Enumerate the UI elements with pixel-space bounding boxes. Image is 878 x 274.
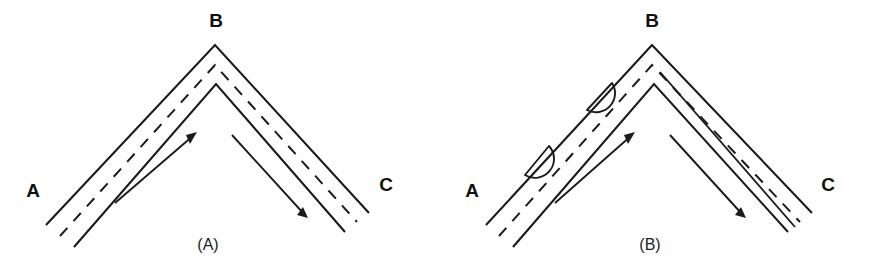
panel-a: A B C (A) bbox=[26, 10, 393, 253]
node-label-a: A bbox=[26, 180, 40, 201]
inner-road-edge bbox=[74, 84, 345, 247]
road-junction-figure: A B C (A) A B C (B) bbox=[0, 0, 878, 274]
node-label-c: C bbox=[821, 174, 835, 195]
flow-arrow-up-ab bbox=[555, 132, 635, 203]
node-label-c: C bbox=[379, 174, 393, 195]
panel-caption-a: (A) bbox=[197, 236, 218, 253]
node-label-b: B bbox=[209, 10, 223, 31]
arrow-shaft bbox=[232, 135, 304, 214]
arrow-shaft bbox=[670, 135, 742, 214]
figure-canvas: A B C (A) A B C (B) bbox=[0, 0, 878, 274]
widening-bulge-lower bbox=[525, 146, 554, 178]
node-label-a: A bbox=[465, 180, 479, 201]
flow-arrow-up-ab bbox=[115, 132, 197, 203]
node-label-b: B bbox=[645, 10, 659, 31]
panel-b: A B C (B) bbox=[465, 10, 835, 253]
arrow-head bbox=[624, 132, 635, 144]
arrow-shaft bbox=[555, 135, 632, 203]
panel-caption-b: (B) bbox=[639, 236, 660, 253]
flow-arrow-down-bc bbox=[670, 135, 746, 218]
widening-bulge-upper bbox=[587, 83, 615, 112]
arrow-shaft bbox=[115, 135, 194, 203]
arrow-head bbox=[186, 132, 197, 144]
outer-road-edge bbox=[486, 45, 812, 225]
